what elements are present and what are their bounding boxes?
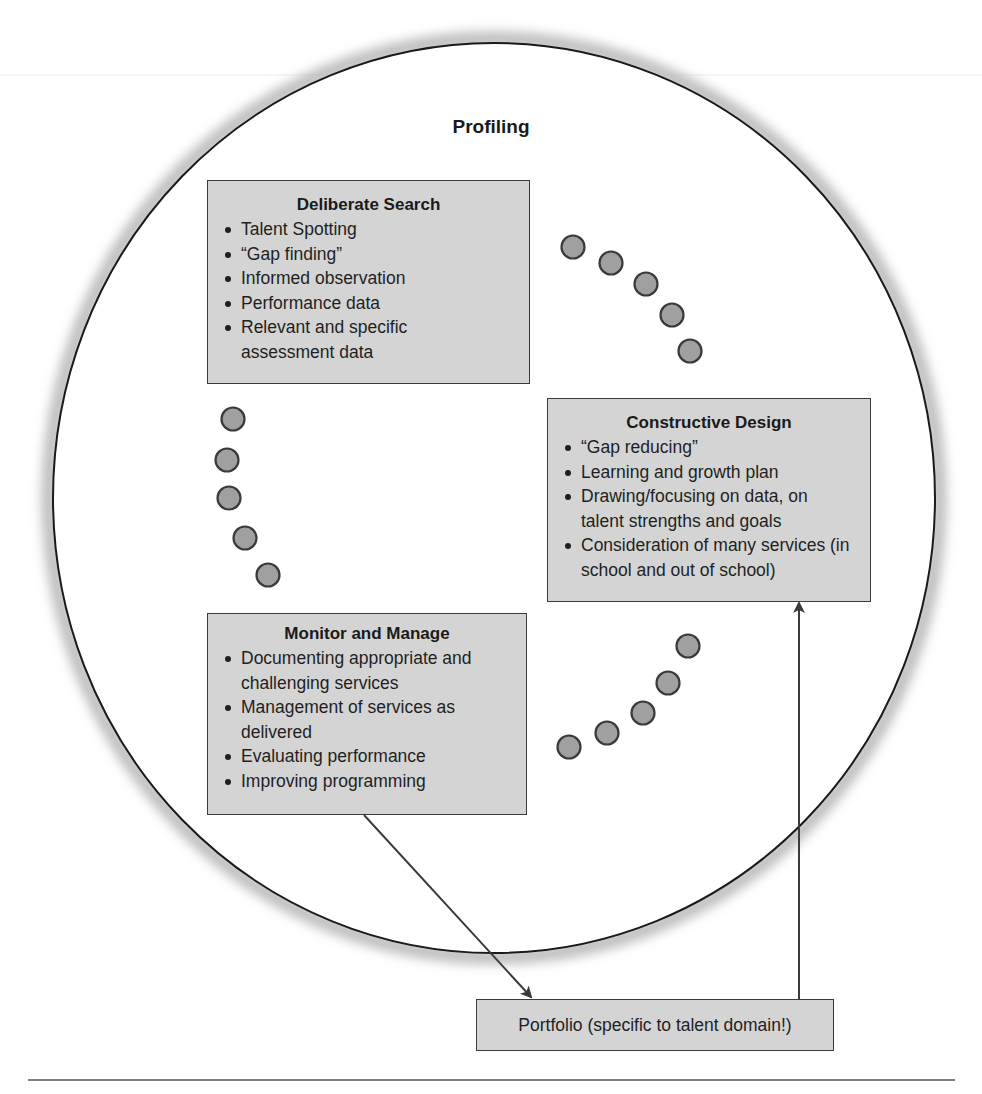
list-item: Management of services as delivered [216,695,518,744]
list-item: Drawing/focusing on data, on talent stre… [556,484,862,533]
list-item: Informed observation [216,266,521,291]
constructive-design-list: “Gap reducing” Learning and growth plan … [556,435,862,582]
monitor-and-manage-box: Monitor and Manage Documenting appropria… [207,613,527,815]
list-item: Consideration of many services (in schoo… [556,533,862,582]
diagram-title: Profiling [0,116,982,138]
constructive-design-heading: Constructive Design [556,413,862,433]
monitor-and-manage-list: Documenting appropriate and challenging … [216,646,518,793]
list-item: Learning and growth plan [556,460,862,485]
list-item: “Gap reducing” [556,435,862,460]
list-item: Improving programming [216,769,518,794]
list-item: Evaluating performance [216,744,518,769]
deliberate-search-box: Deliberate Search Talent Spotting “Gap f… [207,180,530,384]
list-item: Talent Spotting [216,217,521,242]
deliberate-search-list: Talent Spotting “Gap finding” Informed o… [216,217,521,364]
constructive-design-box: Constructive Design “Gap reducing” Learn… [547,398,871,602]
portfolio-box: Portfolio (specific to talent domain!) [476,999,834,1051]
monitor-and-manage-heading: Monitor and Manage [216,624,518,644]
deliberate-search-heading: Deliberate Search [216,195,521,215]
list-item: Performance data [216,291,521,316]
list-item: Documenting appropriate and challenging … [216,646,518,695]
list-item: “Gap finding” [216,242,521,267]
list-item: Relevant and specific assessment data [216,315,521,364]
